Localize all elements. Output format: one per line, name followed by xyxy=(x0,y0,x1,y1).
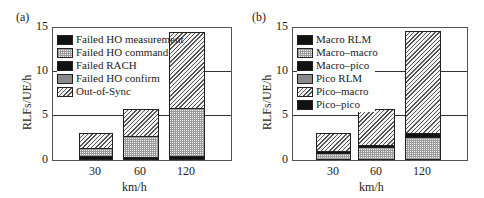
segment-macro-macro xyxy=(316,153,351,160)
segment-pico-macro xyxy=(316,133,351,151)
segment-out-of-sync xyxy=(79,133,113,148)
panel-a-ytick-0: 0 xyxy=(34,152,48,167)
legend-swatch-black xyxy=(57,61,73,71)
segment-pico-macro xyxy=(405,31,441,133)
panel-b-label: (b) xyxy=(252,10,266,25)
panel-b: (b) RLFs/UE/h 15 10 5 0 Macro xyxy=(242,0,484,198)
panel-a-plot-area: Failed HO measurement Failed HO command … xyxy=(52,27,232,161)
legend-swatch-hatch xyxy=(57,87,73,97)
panel-a-legend: Failed HO measurement Failed HO command … xyxy=(57,32,169,98)
legend-swatch-grid xyxy=(297,48,313,58)
panel-a-xtick-120: 120 xyxy=(166,164,206,179)
panel-a-ytick-5: 5 xyxy=(34,107,48,122)
legend-swatch-hatch xyxy=(297,87,313,97)
legend-swatch-grid xyxy=(57,48,73,58)
segment-out-of-sync xyxy=(123,109,159,136)
panel-a-xtick-60: 60 xyxy=(120,164,160,179)
panel-b-ytick-15: 15 xyxy=(274,19,288,34)
panel-b-xtick-120: 120 xyxy=(402,164,442,179)
segment-failed-ho-measurement xyxy=(169,156,205,160)
segment-macro-macro xyxy=(405,137,441,160)
panel-b-bar-30 xyxy=(316,133,351,160)
panel-b-xtick-60: 60 xyxy=(356,164,396,179)
segment-failed-ho-measurement xyxy=(79,156,113,160)
legend-swatch-gray xyxy=(297,74,313,84)
panel-b-xtick-30: 30 xyxy=(313,164,353,179)
legend-swatch-gray xyxy=(57,74,73,84)
panel-b-ytick-5: 5 xyxy=(274,107,288,122)
segment-pico-macro xyxy=(358,109,395,145)
segment-macro-macro xyxy=(358,147,395,160)
panel-a-y-axis-label: RLFs/UE/h xyxy=(20,75,35,130)
panel-a-bar-60 xyxy=(123,109,159,160)
panel-b-ytick-10: 10 xyxy=(274,63,288,78)
panel-a-x-axis-label: km/h xyxy=(122,180,147,195)
legend-swatch-black xyxy=(57,35,73,45)
panel-b-ytick-0: 0 xyxy=(274,152,288,167)
panel-a-ytick-10: 10 xyxy=(34,63,48,78)
panel-a-bar-120 xyxy=(169,32,205,160)
legend-swatch-black xyxy=(297,61,313,71)
panel-b-legend: Macro RLM Macro–macro Macro–pico Pico RL… xyxy=(297,32,375,112)
panel-b-y-axis-label: RLFs/UE/h xyxy=(260,75,275,130)
panel-b-bar-120 xyxy=(405,31,441,160)
panel-a-label: (a) xyxy=(16,10,29,25)
panel-b-plot-area: Macro RLM Macro–macro Macro–pico Pico RL… xyxy=(292,27,468,161)
legend-swatch-black xyxy=(297,35,313,45)
segment-failed-ho-command xyxy=(79,148,113,156)
segment-failed-ho-measurement xyxy=(123,157,159,160)
panel-a-ytick-15: 15 xyxy=(34,19,48,34)
panel-b-bar-60 xyxy=(358,109,395,160)
panel-a: (a) RLFs/UE/h 15 10 5 0 F xyxy=(0,0,242,198)
segment-failed-ho-command xyxy=(123,136,159,157)
segment-failed-ho-command xyxy=(169,108,205,156)
panel-a-xtick-30: 30 xyxy=(75,164,115,179)
panel-b-x-axis-label: km/h xyxy=(359,180,384,195)
legend-swatch-black xyxy=(297,100,313,110)
panel-a-bar-30 xyxy=(79,133,113,160)
